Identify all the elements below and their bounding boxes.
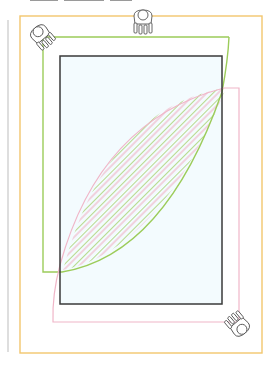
cropped-header-text — [30, 0, 200, 2]
header-word — [30, 0, 58, 1]
person-top-left-icon — [28, 22, 57, 51]
header-word — [110, 0, 132, 1]
person-top-center-icon — [134, 10, 152, 34]
header-word — [64, 0, 104, 1]
person-bottom-right-icon — [223, 310, 252, 339]
floor-plan-diagram — [0, 0, 279, 371]
diagram-canvas — [0, 0, 279, 371]
